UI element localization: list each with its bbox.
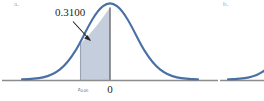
- panel-b: b.: [220, 0, 264, 101]
- shaded-area-region: [81, 8, 111, 81]
- normal-curve-plot-partial: [220, 0, 264, 101]
- x-axis-tick-label-zero: 0: [100, 84, 120, 95]
- shaded-area-value-label: 0.3100: [55, 7, 85, 18]
- figure-root: a. 0.3100 z0.06 0 b.: [0, 0, 264, 101]
- normal-distribution-curve-partial: [228, 69, 264, 79]
- x-axis-tick-label-z-alpha: z0.06: [70, 86, 96, 93]
- z-subscript: 0.06: [80, 88, 88, 93]
- panel-a: a. 0.3100 z0.06 0: [0, 0, 220, 101]
